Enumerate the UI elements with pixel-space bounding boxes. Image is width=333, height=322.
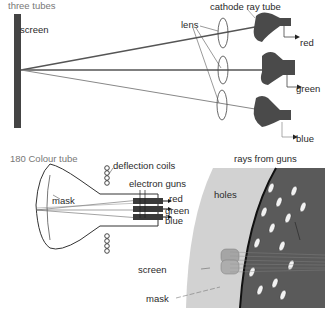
electron-guns-label: electron guns	[129, 179, 186, 189]
ray-red	[21, 27, 255, 70]
blue-label-bottom: blue	[165, 216, 183, 226]
deflection-coil-bottom	[105, 234, 110, 254]
red-label-bottom: red	[169, 194, 183, 204]
screen-label-detail: screen	[138, 265, 167, 275]
mask-label-detail: mask	[146, 294, 169, 304]
lens-label: lens	[181, 20, 198, 30]
deflection-coils-label: deflection coils	[113, 161, 175, 171]
cathode-ray-tube-red	[254, 12, 300, 42]
mask-label-tube: mask	[52, 196, 75, 206]
bottom-caption: 180 Colour tube	[10, 154, 78, 164]
top-caption: three tubes	[8, 1, 56, 11]
screen-label: screen	[20, 25, 49, 35]
blue-label-top: blue	[296, 134, 314, 144]
green-label-top: green	[296, 84, 320, 94]
lens-bottom	[217, 90, 227, 120]
rays-from-guns-label: rays from guns	[234, 154, 297, 164]
deflection-coil-top	[105, 166, 110, 186]
red-label-top: red	[300, 38, 314, 48]
cathode-ray-tube-blue	[254, 96, 298, 140]
ray-blue	[21, 70, 255, 109]
mask-detail	[186, 168, 325, 308]
cathode-ray-tube-label: cathode ray tube	[210, 2, 281, 12]
holes-label: holes	[214, 190, 237, 200]
